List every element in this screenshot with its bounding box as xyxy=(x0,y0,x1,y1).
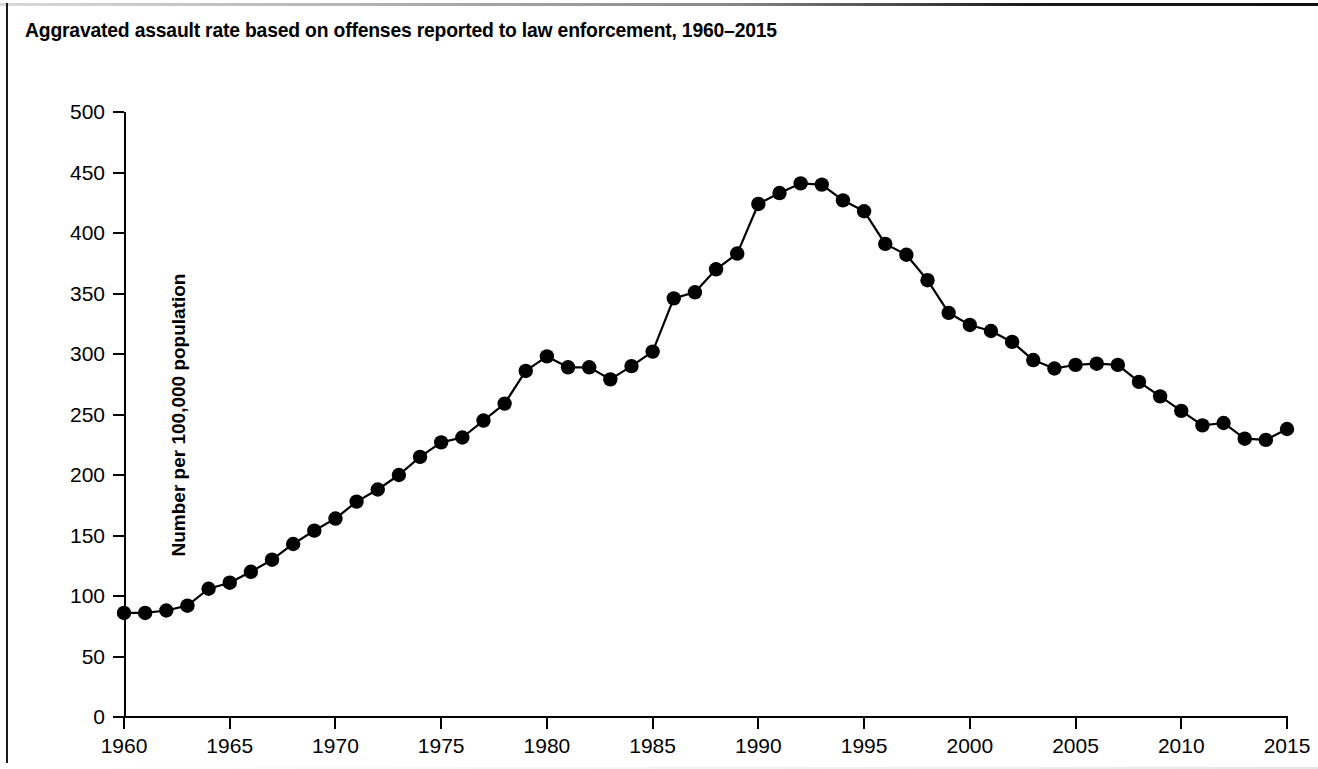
data-point xyxy=(941,306,955,320)
x-axis-tick-label: 1965 xyxy=(206,734,253,758)
data-point xyxy=(561,360,575,374)
data-point xyxy=(201,582,215,596)
y-axis-tick-label: 250 xyxy=(70,403,105,427)
data-point xyxy=(180,598,194,612)
y-axis-tick-label: 500 xyxy=(70,100,105,124)
data-point xyxy=(434,435,448,449)
data-point xyxy=(836,193,850,207)
y-axis-tick: 400 xyxy=(113,232,124,234)
data-point xyxy=(328,511,342,525)
x-axis-tick xyxy=(969,716,971,729)
data-point xyxy=(117,606,131,620)
data-point xyxy=(455,430,469,444)
data-point xyxy=(963,318,977,332)
data-point xyxy=(540,349,554,363)
y-axis-tick: 100 xyxy=(113,595,124,597)
data-point xyxy=(223,575,237,589)
data-point xyxy=(709,262,723,276)
y-axis-tick-label: 450 xyxy=(70,161,105,185)
data-point xyxy=(624,359,638,373)
x-axis-tick-label: 1985 xyxy=(629,734,676,758)
data-point xyxy=(645,344,659,358)
data-point xyxy=(1068,358,1082,372)
y-axis-tick: 250 xyxy=(113,414,124,416)
y-axis-title-container: Number per 100,000 population xyxy=(0,112,80,718)
data-point xyxy=(857,204,871,218)
data-point xyxy=(1238,432,1252,446)
x-axis-tick-label: 2015 xyxy=(1264,734,1311,758)
data-point xyxy=(1216,416,1230,430)
x-axis-tick xyxy=(757,716,759,729)
data-point xyxy=(920,273,934,287)
x-axis-tick-label: 1990 xyxy=(735,734,782,758)
y-axis-tick: 350 xyxy=(113,293,124,295)
y-axis-tick-label: 350 xyxy=(70,282,105,306)
data-point xyxy=(244,565,258,579)
data-point xyxy=(371,482,385,496)
y-axis-tick-label: 200 xyxy=(70,463,105,487)
data-point xyxy=(286,537,300,551)
data-series-aggravated-assault-rate xyxy=(124,112,1287,717)
y-axis-tick: 50 xyxy=(113,656,124,658)
data-point xyxy=(307,523,321,537)
data-point xyxy=(793,176,807,190)
x-axis-tick xyxy=(1286,716,1288,729)
x-axis-tick-label: 1995 xyxy=(841,734,888,758)
y-axis-tick: 200 xyxy=(113,474,124,476)
data-point xyxy=(392,468,406,482)
x-axis-tick xyxy=(334,716,336,729)
data-point xyxy=(730,246,744,260)
data-point xyxy=(1047,361,1061,375)
y-axis-tick-label: 100 xyxy=(70,584,105,608)
data-point xyxy=(1005,335,1019,349)
y-axis-tick-label: 300 xyxy=(70,342,105,366)
data-point xyxy=(413,450,427,464)
data-point xyxy=(138,606,152,620)
x-axis-tick-label: 1980 xyxy=(524,734,571,758)
x-axis-tick-label: 1960 xyxy=(101,734,148,758)
y-axis-tick-label: 150 xyxy=(70,524,105,548)
y-axis-tick: 300 xyxy=(113,353,124,355)
x-axis-tick xyxy=(1180,716,1182,729)
x-axis-tick xyxy=(123,716,125,729)
data-point xyxy=(878,237,892,251)
data-point xyxy=(1111,358,1125,372)
data-point xyxy=(667,291,681,305)
x-axis-tick xyxy=(440,716,442,729)
page-title: Aggravated assault rate based on offense… xyxy=(25,18,777,42)
y-axis-tick-label: 0 xyxy=(93,705,105,729)
data-point xyxy=(772,186,786,200)
data-point xyxy=(476,413,490,427)
data-point xyxy=(582,360,596,374)
x-axis-tick-label: 2005 xyxy=(1052,734,1099,758)
data-point xyxy=(519,364,533,378)
x-axis-tick-label: 1975 xyxy=(418,734,465,758)
data-point xyxy=(688,285,702,299)
y-axis-tick-label: 50 xyxy=(82,645,105,669)
data-point xyxy=(984,324,998,338)
data-point xyxy=(1132,375,1146,389)
data-point xyxy=(1026,353,1040,367)
data-point xyxy=(1259,433,1273,447)
x-axis-tick xyxy=(652,716,654,729)
data-point xyxy=(1153,389,1167,403)
chart-figure: Aggravated assault rate based on offense… xyxy=(0,0,1318,769)
data-point xyxy=(899,248,913,262)
data-point xyxy=(349,494,363,508)
data-point xyxy=(1174,404,1188,418)
data-point xyxy=(1089,356,1103,370)
data-point xyxy=(1280,422,1294,436)
x-axis-tick-label: 2010 xyxy=(1158,734,1205,758)
data-point xyxy=(265,553,279,567)
x-axis-tick xyxy=(863,716,865,729)
x-axis-tick-label: 2000 xyxy=(946,734,993,758)
y-axis-tick-label: 400 xyxy=(70,221,105,245)
x-axis-tick xyxy=(546,716,548,729)
x-axis-tick xyxy=(1075,716,1077,729)
plot-area: 500450400350300250200150100500 196019651… xyxy=(124,112,1287,717)
top-border-rule xyxy=(0,3,1318,6)
y-axis-tick: 150 xyxy=(113,535,124,537)
data-point xyxy=(751,197,765,211)
y-axis-tick: 450 xyxy=(113,172,124,174)
series-markers xyxy=(117,176,1294,620)
